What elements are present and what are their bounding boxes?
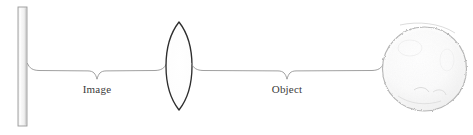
object-sphere bbox=[383, 23, 467, 111]
optics-diagram-canvas: Image Object bbox=[0, 0, 473, 135]
object-distance-brace bbox=[192, 64, 384, 80]
converging-lens bbox=[166, 22, 192, 110]
optics-diagram: Image Object bbox=[0, 0, 473, 135]
sphere-texture bbox=[386, 30, 464, 108]
image-distance-brace bbox=[28, 64, 167, 80]
object-brace-path bbox=[192, 64, 384, 80]
screen-element bbox=[18, 7, 27, 126]
image-label: Image bbox=[83, 83, 111, 95]
image-brace-path bbox=[28, 64, 167, 80]
object-label: Object bbox=[272, 83, 303, 95]
